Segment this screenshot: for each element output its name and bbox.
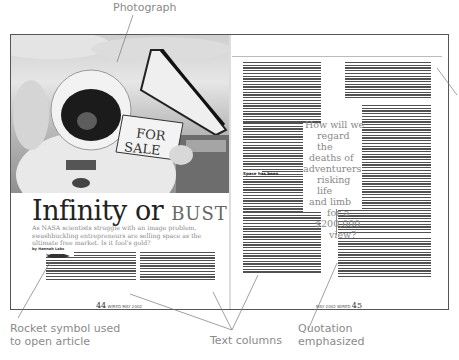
annotation-rocket-symbol: Rocket symbol used to open article	[10, 322, 120, 348]
annotation-text-columns: Text columns	[210, 334, 282, 347]
annotation-leader-lines	[0, 0, 459, 360]
annotation-quotation-emphasized: Quotation emphasized	[298, 322, 365, 348]
